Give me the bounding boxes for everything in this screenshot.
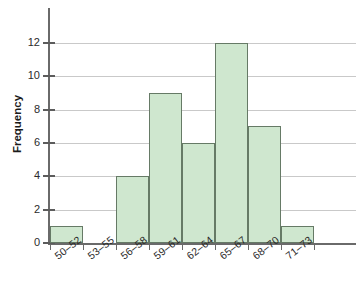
chart-plot-area: 024681012 50–5253–5556–5859–6162–6465–67… xyxy=(0,0,362,285)
histogram-bar xyxy=(149,93,182,243)
histogram-bar xyxy=(248,126,281,243)
gridline-12 xyxy=(50,43,356,44)
gridline-10 xyxy=(50,76,356,77)
x-tick-mark-7 xyxy=(281,245,282,250)
y-tick-mark-4 xyxy=(43,175,55,177)
y-tick-mark-2 xyxy=(43,209,55,211)
y-tick-label-12: 12 xyxy=(14,37,40,48)
x-tick-mark-0 xyxy=(50,245,51,250)
y-tick-mark-10 xyxy=(43,75,55,77)
y-axis-title: Frequency xyxy=(11,81,23,167)
histogram-bar xyxy=(182,143,215,243)
x-tick-mark-1 xyxy=(83,245,84,250)
y-tick-label-10: 10 xyxy=(14,70,40,81)
histogram-bar xyxy=(215,43,248,243)
y-tick-label-4: 4 xyxy=(14,170,40,181)
y-tick-mark-6 xyxy=(43,142,55,144)
y-tick-mark-8 xyxy=(43,109,55,111)
x-tick-mark-2 xyxy=(116,245,117,250)
x-tick-mark-6 xyxy=(248,245,249,250)
x-tick-label: 53–55 xyxy=(85,233,116,261)
y-tick-mark-12 xyxy=(43,42,55,44)
x-tick-mark-5 xyxy=(215,245,216,250)
x-tick-mark-4 xyxy=(182,245,183,250)
y-tick-label-0: 0 xyxy=(14,237,40,248)
histogram-screenshot: · 024681012 50–5253–5556–5859–6162–6465–… xyxy=(0,0,362,285)
histogram-bar xyxy=(116,176,149,243)
x-tick-mark-3 xyxy=(149,245,150,250)
y-tick-label-2: 2 xyxy=(14,204,40,215)
x-tick-mark-8 xyxy=(314,245,315,250)
gridline-8 xyxy=(50,110,356,111)
